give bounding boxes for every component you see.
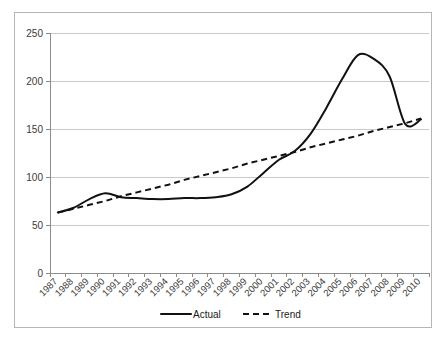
chart-legend: Actual Trend: [161, 309, 301, 320]
y-tick-marks-group: [46, 33, 50, 273]
series-line-trend: [58, 118, 421, 212]
x-axis-tick-labels-group: 1987198819891990199119921993199419951996…: [37, 276, 423, 299]
y-tick-label-100: 100: [26, 172, 43, 183]
chart-figure: 250200150100500 198719881989199019911992…: [14, 12, 432, 328]
y-tick-label-150: 150: [26, 124, 43, 135]
y-axis-tick-labels-group: 250200150100500: [26, 28, 43, 279]
legend-label-actual: Actual: [193, 309, 221, 320]
chart-canvas: 250200150100500 198719881989199019911992…: [15, 13, 431, 327]
y-tick-label-250: 250: [26, 28, 43, 39]
y-tick-label-50: 50: [32, 220, 44, 231]
x-tick-label-2010: 2010: [400, 276, 423, 299]
y-tick-label-0: 0: [37, 268, 43, 279]
legend-label-trend: Trend: [275, 309, 301, 320]
gridlines-group: [50, 33, 429, 225]
series-line-actual: [58, 54, 421, 213]
y-tick-label-200: 200: [26, 76, 43, 87]
